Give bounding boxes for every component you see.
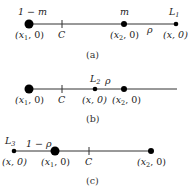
x1-coord-label: (x1, 0) xyxy=(15,94,44,107)
x2-coord-label: (x2, 0) xyxy=(137,156,166,169)
x2-coord-label: (x2, 0) xyxy=(112,94,141,107)
one-minus-rho-label: 1 − ρ xyxy=(26,138,52,149)
x2-coord-label: (x2, 0) xyxy=(110,29,139,42)
caption-a: (a) xyxy=(86,49,99,60)
primary-mass-dot xyxy=(51,147,60,156)
caption-b: (b) xyxy=(86,113,100,124)
x1-coord-label: (x1, 0) xyxy=(41,156,70,169)
center-label: C xyxy=(58,29,66,40)
x-coord-label: (x, 0) xyxy=(2,156,27,167)
panel-a: 1 − m m L1 ρ (x1, 0) C (x2, 0) (x, 0) (a… xyxy=(15,6,188,60)
l3-point-dot xyxy=(12,149,17,154)
mass2-label: m xyxy=(120,6,129,17)
l2-label: L2 xyxy=(89,73,100,86)
lagrange-points-diagram: 1 − m m L1 ρ (x1, 0) C (x2, 0) (x, 0) (a… xyxy=(0,0,193,190)
x-coord-label: (x, 0) xyxy=(163,29,188,40)
secondary-mass-dot xyxy=(121,86,127,92)
primary-mass-dot xyxy=(25,85,34,94)
panel-b: L2 ρ (x1, 0) C (x, 0) (x2, 0) (b) xyxy=(15,73,177,124)
l3-label: L3 xyxy=(4,135,15,148)
secondary-mass-dot xyxy=(121,21,127,27)
l2-point-dot xyxy=(93,87,98,92)
caption-c: (c) xyxy=(86,175,99,186)
center-label: C xyxy=(85,156,93,167)
primary-mass-dot xyxy=(25,20,34,29)
mass1-label: 1 − m xyxy=(18,6,47,17)
rho-label: ρ xyxy=(146,24,153,35)
secondary-mass-dot xyxy=(148,148,154,154)
l1-point-dot xyxy=(174,22,179,27)
panel-c: L3 1 − ρ (x, 0) (x1, 0) C (x2, 0) (c) xyxy=(2,135,166,186)
rho-label: ρ xyxy=(104,75,111,86)
l1-label: L1 xyxy=(168,6,179,19)
x-coord-label: (x, 0) xyxy=(82,94,107,105)
x1-coord-label: (x1, 0) xyxy=(15,29,44,42)
center-label: C xyxy=(58,94,66,105)
